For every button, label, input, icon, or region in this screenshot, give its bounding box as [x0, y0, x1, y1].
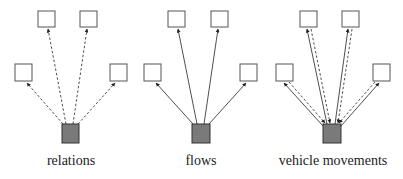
node-side-left — [15, 64, 32, 81]
node-top-left — [38, 11, 55, 27]
caption-vehicle-movements: vehicle movements — [272, 153, 394, 173]
caption-flows: flows — [160, 153, 242, 173]
node-top-left — [168, 11, 185, 27]
edge-dashed — [78, 83, 115, 124]
node-top-right — [80, 11, 97, 27]
node-top-right — [342, 11, 359, 27]
hub-node — [192, 124, 210, 143]
hub-node — [62, 124, 79, 143]
edge-solid — [156, 83, 193, 124]
edge-solid — [307, 29, 327, 124]
node-side-right — [373, 64, 390, 81]
node-top-left — [300, 11, 317, 27]
edge-solid — [335, 29, 348, 124]
edge-solid — [341, 83, 379, 126]
hub-node — [323, 124, 341, 143]
edge-dashed — [311, 29, 330, 123]
panel-vehicle-movements — [276, 11, 390, 143]
edge-dashed — [73, 29, 87, 124]
edge-solid — [284, 83, 323, 126]
edge-dashed — [339, 82, 375, 123]
edge-solid — [178, 29, 197, 124]
node-side-left — [276, 64, 293, 81]
edge-solid — [204, 29, 218, 124]
edge-solid — [209, 83, 246, 124]
node-side-left — [144, 64, 161, 81]
edge-dashed — [338, 29, 352, 123]
node-side-right — [240, 64, 257, 81]
panel-flows — [144, 11, 257, 143]
caption-relations: relations — [30, 153, 112, 173]
panel-relations — [15, 11, 127, 143]
node-side-right — [110, 64, 127, 81]
node-top-right — [211, 11, 228, 27]
edge-dashed — [27, 83, 63, 124]
